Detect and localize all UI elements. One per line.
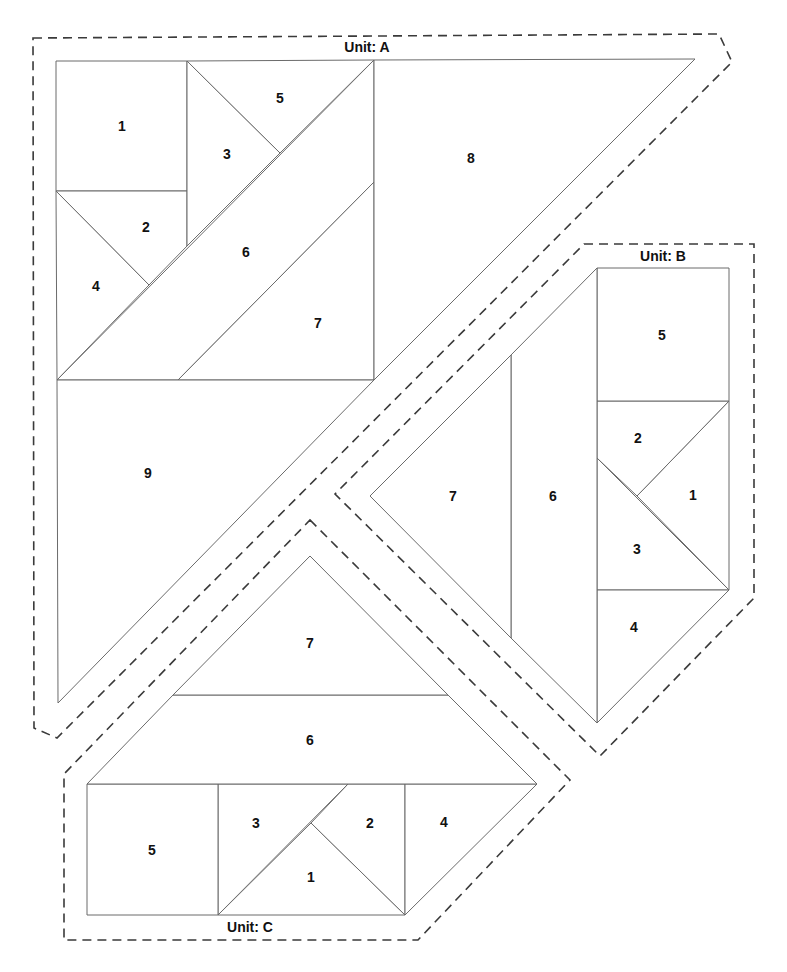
unit-b-piece-6-number: 6	[549, 488, 557, 504]
unit-a-piece-1-number: 1	[118, 118, 126, 134]
unit-a-piece-5-number: 5	[276, 90, 284, 106]
unit-c-piece-4-number: 4	[440, 814, 448, 830]
unit-b-piece-3-number: 3	[633, 541, 641, 557]
unit-b-label: Unit: B	[640, 248, 686, 264]
unit-b-piece-4-number: 4	[630, 619, 638, 635]
unit-a-piece-8-number: 8	[467, 150, 475, 166]
unit-c-piece-1-number: 1	[307, 869, 315, 885]
unit-c-piece-7-number: 7	[306, 635, 314, 651]
unit-b-piece-7-number: 7	[449, 488, 457, 504]
unit-c-piece-2-number: 2	[366, 815, 374, 831]
unit-b-piece-4	[597, 590, 729, 723]
unit-b-piece-2-number: 2	[634, 430, 642, 446]
unit-c-label: Unit: C	[227, 919, 273, 935]
unit-c-piece-7	[173, 556, 448, 695]
unit-b-piece-1-number: 1	[689, 487, 697, 503]
unit-a-piece-7-number: 7	[314, 315, 322, 331]
unit-a-piece-3-number: 3	[223, 146, 231, 162]
unit-b-piece-5-number: 5	[658, 327, 666, 343]
unit-a-piece-4-number: 4	[92, 278, 100, 294]
unit-a-label: Unit: A	[344, 39, 389, 55]
unit-a-piece-9-number: 9	[144, 465, 152, 481]
unit-c-piece-5-number: 5	[148, 842, 156, 858]
unit-a-piece-2-number: 2	[142, 219, 150, 235]
unit-c-piece-6-number: 6	[306, 732, 314, 748]
unit-a-piece-6-number: 6	[242, 244, 250, 260]
unit-b-piece-7	[370, 355, 511, 638]
unit-c-piece-3-number: 3	[252, 815, 260, 831]
unit-c-piece-4	[405, 784, 537, 915]
foundation-paper-piecing-pattern: Unit: A 1 2 3 4 5 6 7 8 9 Unit: B 1 2 3 …	[0, 0, 787, 972]
